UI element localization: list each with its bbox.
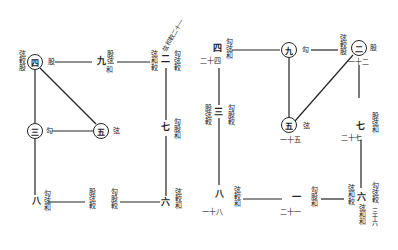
num-four-right: 四 (213, 44, 222, 52)
node-three: 三 (27, 123, 43, 139)
num-three-right: 三 (214, 108, 223, 116)
node-two: 二 (351, 40, 367, 56)
node-five: 五 (93, 123, 109, 139)
label-gou-xian-he-right: 勾弦和 (225, 38, 233, 59)
label-gu-xian-jiao: 股弦較 (88, 188, 96, 209)
sub-thirty-six: 三十六 (370, 208, 378, 226)
node-five-right: 五 (281, 117, 297, 133)
num-two: 二 (161, 55, 170, 63)
label-gou-gu-jiao: 勾股較 (110, 188, 118, 209)
label-gou-xian-he: 勾弦和 (43, 190, 51, 211)
label-xian-right: 弦 (303, 122, 310, 130)
sub-fifteen: 一十五 (280, 136, 301, 144)
num-eight-right: 八 (215, 190, 224, 198)
label-xian-jiao-he-right: 弦較和 (233, 186, 241, 207)
sub-twenty-four: 二十四 (200, 57, 221, 65)
label-gou-gu-jiao-right: 勾股較 (227, 104, 235, 125)
label-xian-jiao-gu: 弦較股 (18, 50, 26, 71)
sub-twenty-one: 二十一 (280, 208, 301, 216)
label-he: 和 (106, 66, 113, 74)
label-gou: 勾 (46, 127, 53, 135)
sub-eighteen: 一十八 (202, 208, 223, 216)
label-xian-he-jiao-right: 弦和較 (347, 184, 355, 205)
label-gu-xian-he: 股弦 (106, 50, 114, 64)
label-xian-he-jiao: 弦和較 (150, 50, 158, 71)
num-six-right: 六 (357, 193, 366, 201)
label-xian-he-he: 弦和和 (358, 204, 366, 225)
label-gu: 股 (48, 58, 55, 66)
num-seven-right: 七 (356, 122, 365, 130)
sub-twelve: 一十二 (348, 58, 369, 66)
label-xian-jiao-he: 弦較和 (174, 188, 182, 209)
num-six: 六 (161, 198, 170, 206)
label-gu-right: 股 (370, 44, 377, 52)
label-gu-xian-jiao-right: 股弦較 (204, 104, 212, 125)
node-four: 四 (27, 54, 43, 70)
num-eight: 八 (32, 197, 41, 205)
num-one-right: 一 (292, 193, 301, 201)
sub-twenty-seven: 二十七 (341, 134, 362, 142)
label-gou-xian-jiao-right: 勾弦較 (371, 182, 379, 203)
num-seven: 七 (161, 123, 170, 131)
node-nine: 九 (281, 42, 297, 58)
label-gou-right: 勾 (302, 46, 309, 54)
label-gu-xian-he-right: 股弦和 (371, 112, 379, 133)
label-gou-gu-he: 勾股和 (173, 118, 181, 139)
label-gou-xian-jiao: 勾弦較 (173, 50, 181, 71)
label-gou-gu-he-right: 勾股和 (310, 186, 318, 207)
label-xian: 弦 (113, 127, 120, 135)
num-nine: 九 (97, 57, 106, 65)
label-xian-jiao-gu-right: 弦較股 (339, 34, 347, 55)
